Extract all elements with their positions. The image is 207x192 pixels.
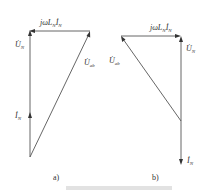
b-un-label: U̇N: [186, 44, 196, 54]
b-drop-arrowhead-icon: [175, 34, 181, 38]
b-in-label: İN: [186, 156, 194, 166]
phasor-diagram-figure: jωLNİN U̇N U̇ab İN a) jωLNİN U̇N U̇ab İN…: [0, 0, 207, 192]
a-drop-label: jωLNİN: [39, 18, 62, 28]
a-uab-arrowhead-icon: [87, 31, 91, 38]
a-un-label: U̇N: [15, 40, 25, 50]
diagram-b: jωLNİN U̇N U̇ab İN b): [109, 23, 196, 182]
diagram-a: jωLNİN U̇N U̇ab İN a): [14, 18, 95, 182]
a-in-arrowhead-icon: [28, 112, 32, 118]
a-in-label: İN: [14, 111, 22, 121]
b-drop-label: jωLNİN: [149, 23, 172, 33]
a-uab-label: U̇ab: [84, 58, 95, 68]
b-uab-vector: [123, 39, 181, 121]
a-uab-vector: [30, 34, 89, 157]
b-sublabel: b): [152, 173, 159, 182]
a-sublabel: a): [53, 173, 60, 182]
b-in-arrowhead-icon: [179, 159, 183, 165]
b-uab-label: U̇ab: [109, 56, 120, 66]
b-un-arrowhead-icon: [179, 36, 183, 42]
